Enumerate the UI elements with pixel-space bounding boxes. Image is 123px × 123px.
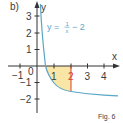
x-tick-label: 4 — [101, 71, 107, 82]
y-tick-label: −1 — [20, 77, 32, 88]
x-tick-label: 3 — [85, 71, 91, 82]
x-tick-label: 2 — [68, 71, 74, 82]
svg-text:− 2: − 2 — [72, 22, 85, 32]
function-plot: b) y x 0 −1 1 2 3 4 3 2 1 −1 −2 y = 1 x … — [0, 0, 123, 123]
curve — [40, 4, 118, 96]
y-tick-label: 3 — [26, 11, 32, 22]
x-tick-label: 1 — [51, 71, 57, 82]
equation-label: y = 1 x − 2 — [47, 21, 85, 35]
part-label: b) — [10, 1, 19, 12]
y-tick-label: −2 — [20, 94, 32, 105]
origin-label: 0 — [28, 66, 34, 77]
figure-caption: Fig. 6 — [98, 113, 116, 121]
y-tick-label: 1 — [26, 44, 32, 55]
svg-text:y =: y = — [47, 22, 59, 32]
y-axis-arrow-icon — [35, 1, 40, 8]
y-axis-label: y — [41, 2, 46, 13]
svg-text:x: x — [66, 28, 69, 34]
x-axis-arrow-icon — [113, 64, 120, 69]
svg-text:1: 1 — [66, 21, 70, 27]
x-axis-label: x — [112, 51, 117, 62]
y-tick-label: 2 — [26, 28, 32, 39]
